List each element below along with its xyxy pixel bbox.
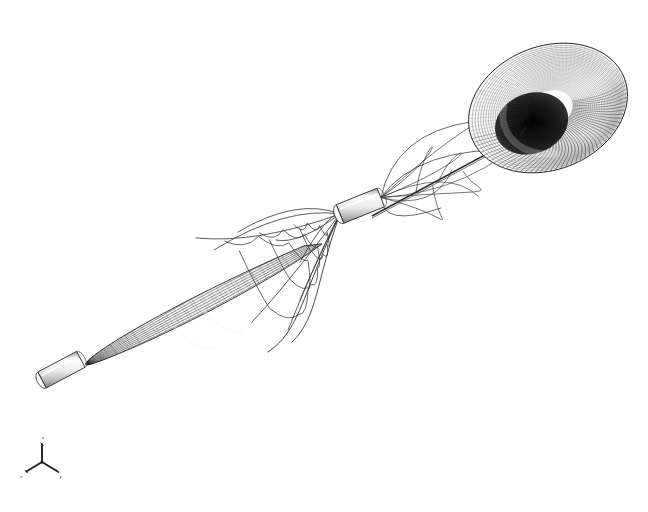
wireframe-scene: zxy — [0, 0, 648, 512]
figure-canvas: 3D wireframe mesh visualization Two conn… — [0, 0, 648, 512]
svg-text:z: z — [42, 435, 44, 440]
